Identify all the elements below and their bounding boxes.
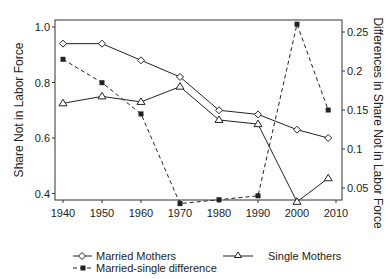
x-tick-label: 1950 <box>90 207 114 219</box>
square-marker-icon <box>295 22 300 27</box>
triangle-marker-icon <box>98 92 106 99</box>
y-left-tick-label: 0.8 <box>35 77 50 89</box>
square-marker-icon <box>139 111 144 116</box>
square-marker-icon <box>178 201 183 206</box>
legend-label-married: Married Mothers <box>96 250 177 262</box>
square-marker-icon <box>326 108 331 113</box>
x-tick-label: 1940 <box>51 207 75 219</box>
legend: Married Mothers Single Mothers Married-s… <box>73 250 342 274</box>
series-married-single-difference <box>61 22 331 206</box>
y-right-tick-label: 0.1 <box>347 143 362 155</box>
triangle-marker-icon <box>293 198 301 205</box>
y-right-tick-label: 0.15 <box>347 104 368 116</box>
diamond-marker-icon <box>99 40 106 47</box>
y-axis-right-label: Differences in Share Not in Labor Force <box>371 17 385 229</box>
legend-label-single: Single Mothers <box>268 250 342 262</box>
y-right-tick-label: 0.25 <box>347 26 368 38</box>
y-right-tick-label: 0.05 <box>347 182 368 194</box>
legend-item-married: Married Mothers <box>73 250 177 262</box>
square-marker-icon <box>61 57 66 62</box>
square-marker-icon <box>81 266 86 271</box>
square-marker-icon <box>217 197 222 202</box>
y-axis-right: 0.050.10.150.20.25 <box>342 26 368 194</box>
series-married-mothers <box>60 40 332 141</box>
legend-label-difference: Married-single difference <box>96 262 217 274</box>
square-marker-icon <box>256 193 261 198</box>
diamond-marker-icon <box>325 135 332 142</box>
series-layer <box>59 22 332 206</box>
triangle-marker-icon <box>176 83 184 90</box>
diamond-marker-icon <box>138 57 145 64</box>
x-axis: 19401950196019701980199020002010 <box>51 200 348 219</box>
series-single-mothers <box>59 83 332 205</box>
square-marker-icon <box>100 80 105 85</box>
x-tick-label: 2000 <box>285 207 309 219</box>
y-left-tick-label: 0.6 <box>35 132 50 144</box>
x-tick-label: 1970 <box>168 207 192 219</box>
x-tick-label: 1990 <box>246 207 270 219</box>
triangle-marker-icon <box>235 252 242 258</box>
diamond-marker-icon <box>294 126 301 133</box>
legend-item-difference: Married-single difference <box>73 262 217 274</box>
plot-area <box>55 20 342 200</box>
y-left-tick-label: 0.4 <box>35 188 50 200</box>
y-left-tick-label: 1.0 <box>35 21 50 33</box>
diamond-marker-icon <box>79 253 86 260</box>
x-tick-label: 1960 <box>129 207 153 219</box>
plot-border <box>55 20 342 200</box>
y-axis-left-label: Share Not in Labor Force <box>12 42 26 177</box>
legend-item-single: Single Mothers <box>223 250 342 262</box>
y-right-tick-label: 0.2 <box>347 65 362 77</box>
x-tick-label: 1980 <box>207 207 231 219</box>
triangle-marker-icon <box>324 174 332 181</box>
line-chart: 19401950196019701980199020002010 0.40.60… <box>0 0 390 279</box>
diamond-marker-icon <box>255 111 262 118</box>
y-axis-left: 0.40.60.81.0 <box>35 21 55 200</box>
x-tick-label: 2010 <box>324 207 348 219</box>
diamond-marker-icon <box>60 40 67 47</box>
